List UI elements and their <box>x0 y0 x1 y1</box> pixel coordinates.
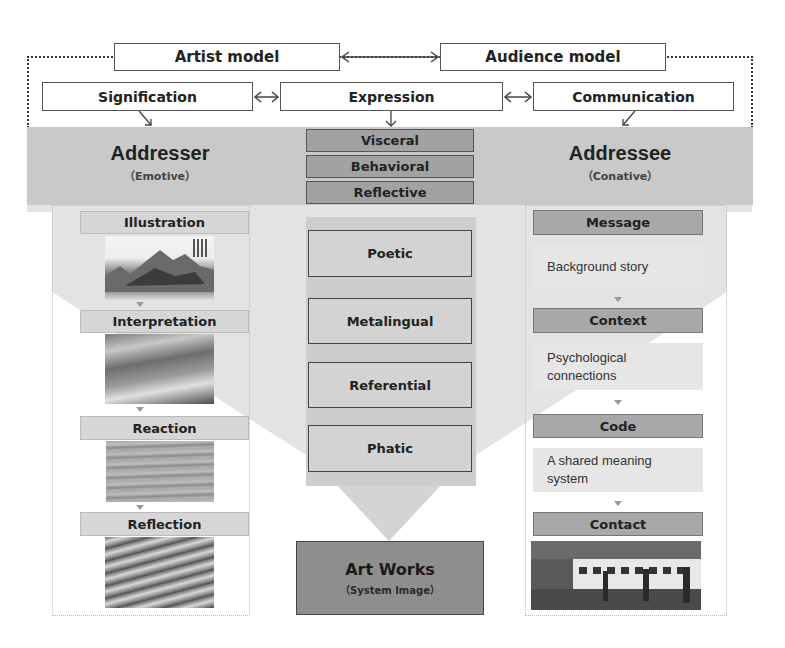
art-works-box: Art Works （System Image） <box>296 541 484 615</box>
level-reflective: Reflective <box>306 181 474 204</box>
step-illustration: Illustration <box>80 211 249 234</box>
addressee-title: Addressee <box>520 142 720 165</box>
addresser-subtitle: （Emotive） <box>60 167 260 183</box>
step-reaction: Reaction <box>80 416 249 440</box>
code-description: A shared meaning system <box>533 448 703 492</box>
function-poetic: Poetic <box>308 230 472 277</box>
function-phatic: Phatic <box>308 425 472 472</box>
step-arrow-icon <box>614 400 622 405</box>
landscape-painting-image <box>105 236 214 300</box>
step-interpretation: Interpretation <box>80 310 249 333</box>
art-works-subtitle: （System Image） <box>340 582 440 597</box>
step-context: Context <box>533 308 703 333</box>
addressee-block: Addressee （Conative） <box>520 142 720 183</box>
step-message: Message <box>533 210 703 235</box>
wave-texture-image <box>105 537 214 608</box>
water-texture-image <box>106 441 214 502</box>
step-reflection: Reflection <box>80 512 249 536</box>
step-contact: Contact <box>533 512 703 536</box>
level-visceral: Visceral <box>306 129 474 152</box>
level-behavioral: Behavioral <box>306 155 474 178</box>
step-code: Code <box>533 414 703 438</box>
step-arrow-icon <box>136 505 144 510</box>
addressee-subtitle: （Conative） <box>520 167 720 183</box>
message-description: Background story <box>533 245 703 288</box>
gallery-photo-image <box>531 541 701 610</box>
addresser-title: Addresser <box>60 142 260 165</box>
addresser-block: Addresser （Emotive） <box>60 142 260 183</box>
step-arrow-icon <box>136 302 144 307</box>
step-arrow-icon <box>614 297 622 302</box>
art-works-title: Art Works <box>345 560 435 579</box>
context-description: Psychological connections <box>533 343 703 390</box>
function-metalingual: Metalingual <box>308 298 472 344</box>
function-referential: Referential <box>308 362 472 408</box>
misty-sky-painting-image <box>105 334 214 404</box>
step-arrow-icon <box>136 407 144 412</box>
step-arrow-icon <box>614 501 622 506</box>
